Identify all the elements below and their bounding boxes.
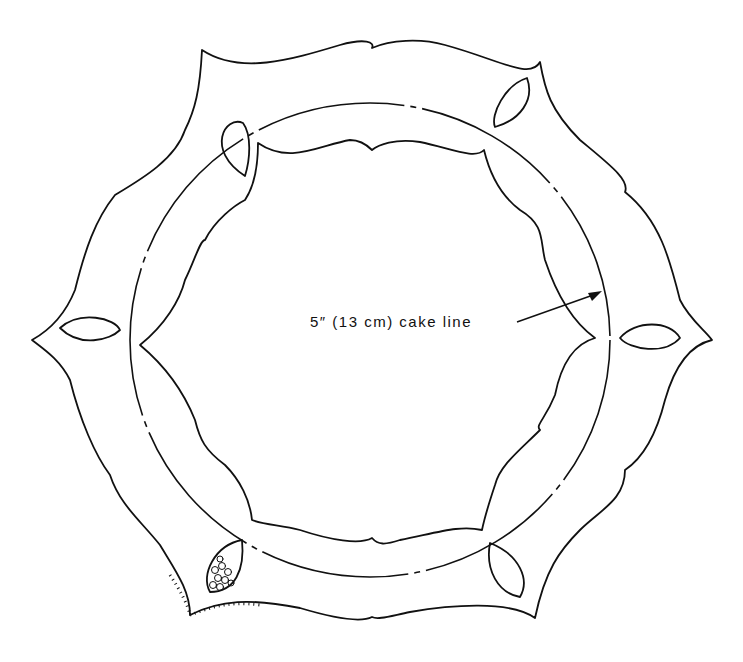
cake-line-label: 5″ (13 cm) cake line <box>310 313 472 330</box>
beaded-edge <box>170 575 260 615</box>
template-diagram <box>0 0 743 662</box>
leaf-cutout <box>489 543 524 597</box>
leaf-cutout <box>620 325 680 349</box>
piped-filigree-sample <box>207 540 243 592</box>
leaf-cutout <box>494 78 529 127</box>
inner-collar-outline <box>140 140 595 544</box>
leaf-cutout <box>60 317 120 340</box>
leaf-cutout <box>222 122 249 176</box>
cake-line-circle <box>130 103 610 577</box>
